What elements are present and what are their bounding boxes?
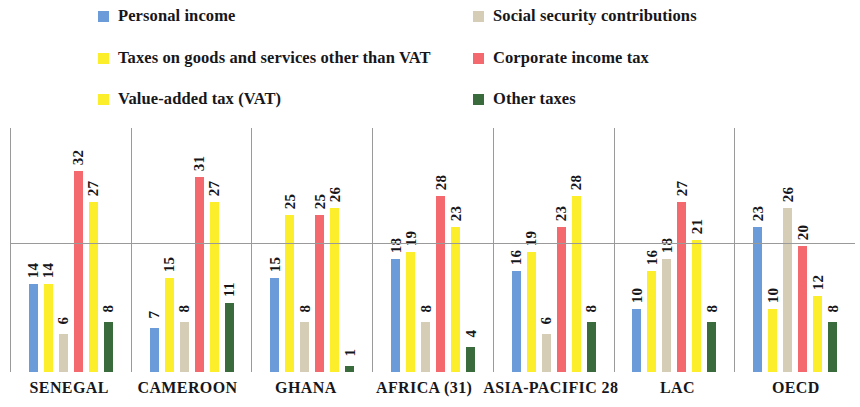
bar-slot[interactable]: 8 [180, 128, 189, 372]
bar-slot[interactable]: 27 [677, 128, 686, 372]
bar-slot[interactable]: 8 [300, 128, 309, 372]
bar[interactable] [677, 202, 686, 372]
bar-slot[interactable]: 32 [74, 128, 83, 372]
bar-slot[interactable]: 8 [828, 128, 837, 372]
bar[interactable] [421, 322, 430, 372]
legend-swatch-icon [473, 53, 484, 64]
bar-slot[interactable]: 6 [59, 128, 68, 372]
bar[interactable] [647, 271, 656, 372]
bar[interactable] [89, 202, 98, 372]
bar-slot[interactable]: 25 [315, 128, 324, 372]
bar-group: 1414632278 [11, 128, 131, 372]
bar[interactable] [150, 328, 159, 372]
bar-slot[interactable]: 11 [225, 128, 234, 372]
bar[interactable] [180, 322, 189, 372]
bar[interactable] [527, 252, 536, 372]
bar[interactable] [466, 347, 475, 372]
bar-slot[interactable]: 19 [406, 128, 415, 372]
bar-slot[interactable]: 18 [391, 128, 400, 372]
bar[interactable] [692, 240, 701, 372]
bar[interactable] [753, 227, 762, 372]
bar[interactable] [783, 208, 792, 372]
bar-slot[interactable]: 26 [330, 128, 339, 372]
bar-slot[interactable]: 4 [466, 128, 475, 372]
bar[interactable] [104, 322, 113, 372]
bar[interactable] [195, 177, 204, 372]
bar-slot[interactable]: 23 [451, 128, 460, 372]
bar[interactable] [828, 322, 837, 372]
bar[interactable] [210, 202, 219, 372]
legend-item[interactable]: Corporate income tax [473, 50, 649, 67]
bar-slot[interactable]: 23 [557, 128, 566, 372]
bar-slot[interactable]: 31 [195, 128, 204, 372]
bar[interactable] [572, 196, 581, 372]
bar[interactable] [165, 278, 174, 372]
bar-slot[interactable]: 1 [345, 128, 354, 372]
bar[interactable] [270, 278, 279, 372]
bar[interactable] [330, 208, 339, 372]
bar-slot[interactable]: 15 [270, 128, 279, 372]
bar[interactable] [391, 259, 400, 372]
bar[interactable] [451, 227, 460, 372]
bar[interactable] [436, 196, 445, 372]
bar-slot[interactable]: 15 [165, 128, 174, 372]
bar-slot[interactable]: 8 [587, 128, 596, 372]
bar[interactable] [74, 171, 83, 372]
legend-item[interactable]: Other taxes [473, 91, 576, 108]
bar[interactable] [406, 252, 415, 372]
bar[interactable] [345, 366, 354, 372]
legend-item[interactable]: Value-added tax (VAT) [98, 91, 281, 108]
legend-item-label: Corporate income tax [493, 50, 649, 67]
bar-slot[interactable]: 6 [542, 128, 551, 372]
bar-slot[interactable]: 7 [150, 128, 159, 372]
bar-slot[interactable]: 25 [285, 128, 294, 372]
bar-slot[interactable]: 28 [436, 128, 445, 372]
bar-slot[interactable]: 27 [89, 128, 98, 372]
bar-slot[interactable]: 14 [44, 128, 53, 372]
bar-slot[interactable]: 16 [647, 128, 656, 372]
bar-value-label: 32 [71, 150, 86, 166]
bar-slot[interactable]: 27 [210, 128, 219, 372]
bar-slot[interactable]: 12 [813, 128, 822, 372]
bar[interactable] [300, 322, 309, 372]
bar-slot[interactable]: 26 [783, 128, 792, 372]
bar[interactable] [225, 303, 234, 372]
legend-item[interactable]: Personal income [98, 8, 235, 25]
bar-value-label: 25 [312, 194, 327, 210]
bar[interactable] [44, 284, 53, 372]
bar-slot[interactable]: 20 [798, 128, 807, 372]
bar[interactable] [557, 227, 566, 372]
bar-slot[interactable]: 8 [707, 128, 716, 372]
bar-slot[interactable]: 23 [753, 128, 762, 372]
bar-value-label: 18 [388, 238, 403, 254]
legend-item[interactable]: Social security contributions [473, 8, 697, 25]
bar[interactable] [587, 322, 596, 372]
bar-slot[interactable]: 28 [572, 128, 581, 372]
legend-item-label: Personal income [118, 8, 235, 25]
bar-slot[interactable]: 10 [768, 128, 777, 372]
bar-slot[interactable]: 21 [692, 128, 701, 372]
bar[interactable] [768, 309, 777, 372]
bar-slot[interactable]: 10 [632, 128, 641, 372]
bar[interactable] [813, 296, 822, 372]
bar[interactable] [662, 259, 671, 372]
bar[interactable] [632, 309, 641, 372]
bar-value-label: 15 [162, 257, 177, 273]
bar-value-label: 11 [222, 282, 237, 297]
bar-slot[interactable]: 16 [512, 128, 521, 372]
bar-slot[interactable]: 19 [527, 128, 536, 372]
bar-slot[interactable]: 14 [29, 128, 38, 372]
bar[interactable] [707, 322, 716, 372]
bar[interactable] [59, 334, 68, 372]
bar-value-label: 8 [101, 305, 116, 313]
bar-slot[interactable]: 18 [662, 128, 671, 372]
bar-slot[interactable]: 8 [421, 128, 430, 372]
bar[interactable] [315, 215, 324, 372]
bar[interactable] [542, 334, 551, 372]
bar[interactable] [512, 271, 521, 372]
bar[interactable] [29, 284, 38, 372]
bar[interactable] [285, 215, 294, 372]
legend-item[interactable]: Taxes on goods and services other than V… [98, 50, 431, 67]
bar-slot[interactable]: 8 [104, 128, 113, 372]
bar[interactable] [798, 246, 807, 372]
